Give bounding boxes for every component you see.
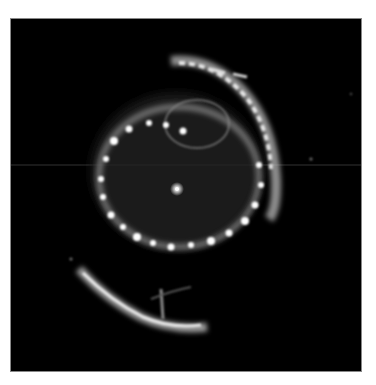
lower-arc — [79, 269, 207, 328]
nebula-image — [10, 18, 362, 372]
nebula-render — [11, 19, 362, 372]
